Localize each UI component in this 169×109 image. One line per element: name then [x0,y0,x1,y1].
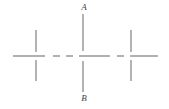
section-line-diagram: A B [0,0,169,109]
section-label-a: A [77,3,91,12]
section-label-b: B [77,94,91,103]
